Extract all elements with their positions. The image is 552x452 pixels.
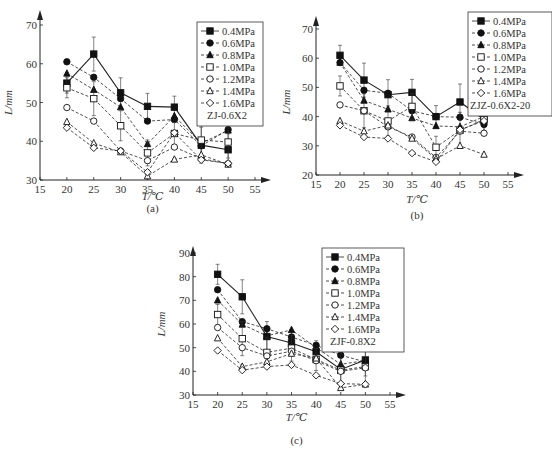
- data-point-marker: [239, 294, 245, 300]
- y-tick-label: 60: [26, 58, 38, 70]
- y-tick-label: 50: [302, 81, 314, 93]
- data-point-marker: [288, 361, 295, 368]
- legend-marker: [207, 28, 213, 34]
- x-tick-label: 20: [61, 183, 73, 195]
- x-axis-title: T/℃: [286, 411, 308, 423]
- legend: 0.4MPa0.6MPa0.8MPa1.0MPa1.2MPa1.4MPa1.6M…: [468, 12, 552, 116]
- legend-marker: [478, 18, 484, 24]
- legend-label: 1.6MPa: [493, 88, 526, 99]
- data-point-marker: [117, 123, 123, 129]
- y-axis-arrow-icon: [37, 10, 43, 20]
- data-point-marker: [408, 149, 415, 156]
- y-tick-label: 50: [179, 342, 191, 354]
- data-point-marker: [214, 271, 220, 277]
- x-tick-label: 50: [223, 183, 235, 195]
- data-point-marker: [312, 372, 319, 379]
- x-axis-arrow-icon: [261, 177, 271, 183]
- y-axis-title: L/mm: [280, 89, 292, 115]
- data-point-marker: [361, 77, 367, 83]
- legend-marker: [332, 266, 338, 272]
- data-point-marker: [457, 99, 463, 105]
- legend-label: 1.2MPa: [222, 74, 255, 85]
- y-tick-label: 40: [302, 111, 314, 123]
- legend-marker: [207, 64, 213, 70]
- legend-marker: [478, 30, 484, 36]
- data-point-marker: [361, 108, 367, 114]
- data-point-marker: [144, 103, 150, 109]
- data-point-marker: [63, 124, 70, 131]
- data-point-marker: [360, 133, 367, 140]
- legend-label: 1.0MPa: [493, 52, 526, 63]
- data-point-marker: [117, 95, 123, 101]
- x-tick-label: 35: [407, 178, 419, 190]
- data-point-marker: [337, 380, 344, 387]
- y-tick-label: 30: [179, 389, 191, 401]
- x-tick-label: 55: [503, 178, 515, 190]
- x-tick-label: 40: [311, 398, 323, 410]
- data-point-marker: [171, 112, 177, 118]
- data-point-marker: [288, 326, 294, 332]
- x-tick-label: 45: [196, 183, 208, 195]
- data-point-marker: [264, 326, 270, 332]
- data-point-marker: [239, 335, 245, 341]
- data-point-marker: [409, 103, 415, 109]
- legend-marker: [478, 66, 484, 72]
- figure: 1520253035404550553040506070T/℃L/mm(a)0.…: [0, 0, 552, 452]
- series-0-4mpa: [337, 45, 487, 135]
- y-tick-label: 30: [302, 140, 314, 152]
- data-point-marker: [91, 118, 97, 124]
- y-tick-label: 60: [302, 52, 314, 64]
- legend-label: 0.4MPa: [493, 16, 526, 27]
- data-point-marker: [144, 118, 150, 124]
- x-tick-label: 50: [360, 398, 372, 410]
- x-tick-label: 50: [479, 178, 491, 190]
- data-point-marker: [171, 144, 177, 150]
- y-tick-label: 60: [179, 318, 191, 330]
- legend-note: ZJ-0.6X2: [207, 110, 247, 121]
- x-tick-label: 20: [212, 398, 224, 410]
- y-tick-label: 70: [26, 19, 38, 31]
- data-point-marker: [361, 87, 367, 93]
- y-axis-arrow-icon: [190, 246, 196, 256]
- y-tick-label: 80: [179, 271, 191, 283]
- legend: 0.4MPa0.6MPa0.8MPa1.0MPa1.2MPa1.4MPa1.6M…: [197, 22, 263, 126]
- data-point-marker: [362, 365, 368, 371]
- x-tick-label: 45: [455, 178, 467, 190]
- legend-label: 0.4MPa: [347, 252, 380, 263]
- x-axis-arrow-icon: [514, 172, 524, 178]
- x-tick-label: 30: [383, 178, 395, 190]
- x-tick-label: 35: [286, 398, 298, 410]
- legend-label: 1.4MPa: [222, 86, 255, 97]
- data-point-marker: [64, 70, 70, 76]
- data-point-marker: [433, 113, 439, 119]
- data-point-marker: [384, 135, 391, 142]
- x-tick-label: 30: [115, 183, 127, 195]
- legend-label: 0.6MPa: [347, 264, 380, 275]
- legend-label: 1.0MPa: [347, 288, 380, 299]
- legend-label: 1.6MPa: [347, 324, 380, 335]
- y-tick-label: 20: [302, 169, 314, 181]
- legend-marker: [207, 40, 213, 46]
- legend-marker: [332, 290, 338, 296]
- data-point-marker: [337, 102, 343, 108]
- data-point-marker: [337, 83, 343, 89]
- x-tick-label: 55: [250, 183, 262, 195]
- legend-label: 1.6MPa: [222, 98, 255, 109]
- chart-b: 152025303540455055203040506070T/℃L/mm(b)…: [280, 12, 552, 222]
- x-tick-label: 25: [359, 178, 371, 190]
- data-point-marker: [117, 103, 123, 109]
- x-tick-label: 30: [261, 398, 273, 410]
- panel-caption: (c): [290, 434, 303, 447]
- x-tick-label: 25: [237, 398, 249, 410]
- data-point-marker: [214, 335, 220, 341]
- y-tick-label: 90: [179, 247, 191, 259]
- data-point-marker: [433, 144, 439, 150]
- x-axis-title: T/℃: [406, 193, 428, 205]
- data-point-marker: [239, 344, 245, 350]
- data-point-marker: [91, 51, 97, 57]
- legend-note: ZJF-0.8X2: [330, 336, 376, 347]
- data-point-marker: [433, 122, 439, 128]
- data-point-marker: [457, 142, 463, 148]
- y-tick-label: 70: [179, 294, 191, 306]
- legend-marker: [332, 302, 338, 308]
